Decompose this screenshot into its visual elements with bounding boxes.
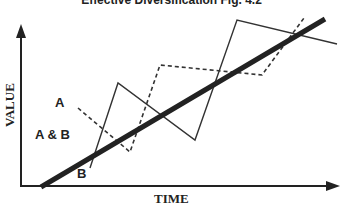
label-ab: A & B [35,127,70,142]
series-ab-line [41,19,325,187]
y-axis-label: VALUE [2,83,17,127]
label-a: A [55,95,65,110]
x-axis-arrow-icon [326,181,340,191]
series-b-line [90,20,337,168]
series-a-line [78,18,304,152]
label-b: B [77,166,86,181]
y-axis-arrow-icon [16,24,26,38]
diversification-diagram: A A & B B TIME VALUE [0,0,343,207]
x-axis-label: TIME [154,191,189,206]
